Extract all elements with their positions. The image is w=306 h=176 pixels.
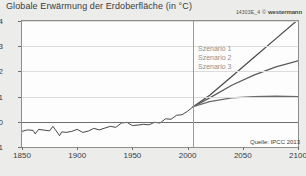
legend-item-szenario-2: Szenario 2 [198, 53, 231, 62]
x-axis-tick-1850 [22, 147, 23, 150]
chart-curves [22, 21, 298, 147]
y-axis-tick-1 [18, 97, 21, 98]
y-axis-tick--1 [18, 147, 21, 148]
y-axis-tick-0 [18, 122, 21, 123]
y-axis-label-3: 3 [0, 42, 3, 51]
x-axis-tick-2100 [298, 147, 299, 150]
chart-legend: Szenario 1 Szenario 2 Szenario 3 [198, 44, 231, 71]
x-axis-label-1950: 1950 [112, 151, 152, 160]
x-axis-label-1850: 1850 [2, 151, 42, 160]
y-axis-tick-2 [18, 71, 21, 72]
zero-line [22, 122, 298, 123]
copyright-icon: © [262, 9, 266, 15]
y-axis-label-2: 2 [0, 67, 3, 76]
gridline-y-2 [22, 71, 298, 72]
x-axis-label-2100: 2100 [278, 151, 306, 160]
gridline-y-1 [22, 97, 298, 98]
gridline-y-4 [22, 21, 298, 22]
legend-item-szenario-3: Szenario 3 [198, 62, 231, 71]
chart-source: Quelle: IPCC 2013 [250, 139, 300, 145]
y-axis-label-1: 1 [0, 92, 3, 101]
chart-title: Globale Erwärmung der Erdoberfläche (in … [6, 1, 192, 11]
x-axis-label-2050: 2050 [223, 151, 263, 160]
y-axis-tick-3 [18, 46, 21, 47]
x-axis-tick-2000 [188, 147, 189, 150]
chart-figure: Globale Erwärmung der Erdoberfläche (in … [0, 0, 306, 176]
y-axis-label-0: 0 [0, 117, 3, 126]
y-axis-label-4: 4 [0, 17, 3, 26]
plot-area [21, 20, 299, 148]
x-axis-tick-1950 [132, 147, 133, 150]
x-axis-label-2000: 2000 [168, 151, 208, 160]
x-axis-tick-2050 [243, 147, 244, 150]
legend-item-szenario-1: Szenario 1 [198, 44, 231, 53]
publisher-credit: 14303E_4 © westermann [236, 9, 302, 15]
credit-code: 14303E_4 [236, 9, 260, 15]
westermann-logo: westermann [268, 9, 302, 15]
x-axis-label-1900: 1900 [57, 151, 97, 160]
y-axis-tick-4 [18, 21, 21, 22]
projection-divider-line [193, 21, 194, 147]
gridline-y-3 [22, 46, 298, 47]
x-axis-tick-1900 [77, 147, 78, 150]
